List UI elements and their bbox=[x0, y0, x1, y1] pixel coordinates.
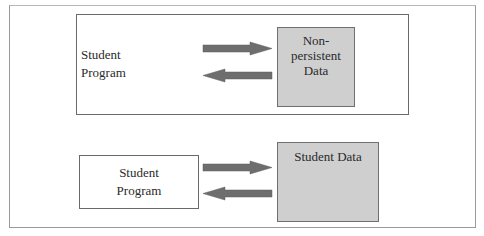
arrows-layer bbox=[0, 0, 484, 236]
top-right-arrow-icon bbox=[203, 42, 272, 55]
bottom-left-arrow-icon bbox=[203, 187, 272, 200]
top-left-arrow-icon bbox=[203, 69, 272, 82]
bottom-right-arrow-icon bbox=[203, 161, 272, 174]
